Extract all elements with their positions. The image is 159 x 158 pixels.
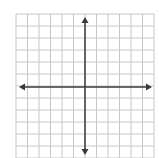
x-axis-left-arrow-icon [19, 84, 25, 91]
y-axis-up-arrow-icon [82, 17, 89, 23]
coordinate-plane [0, 0, 159, 158]
y-axis-down-arrow-icon [82, 149, 89, 155]
x-axis-right-arrow-icon [146, 84, 152, 91]
